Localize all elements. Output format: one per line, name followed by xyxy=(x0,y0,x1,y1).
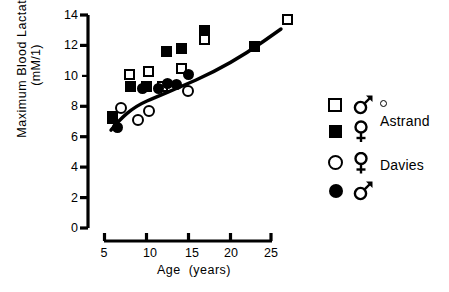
data-point-open-square xyxy=(124,69,135,80)
data-point-open-circle xyxy=(143,105,155,117)
male-symbol-icon xyxy=(352,94,374,118)
data-point-filled-circle xyxy=(183,69,194,80)
open-square-icon xyxy=(328,96,346,114)
legend-label-astrand: Astrand xyxy=(380,113,430,129)
filled-square-icon xyxy=(328,122,346,140)
data-point-filled-square xyxy=(199,25,210,36)
data-point-filled-square xyxy=(176,43,187,54)
degree-dot-icon xyxy=(380,100,387,107)
legend-label-davies: Davies xyxy=(380,157,424,173)
data-point-open-square xyxy=(282,14,293,25)
data-point-open-circle xyxy=(132,114,144,126)
legend-row-astrand-female: Astrand xyxy=(328,122,449,148)
chart-legend: Astrand Davies xyxy=(328,96,449,214)
legend-row-davies-male xyxy=(328,182,449,208)
female-symbol-icon xyxy=(352,152,374,176)
data-point-filled-circle xyxy=(112,122,123,133)
data-point-filled-circle xyxy=(137,83,148,94)
data-point-open-circle xyxy=(115,102,127,114)
female-symbol-icon xyxy=(352,120,374,144)
filled-circle-icon xyxy=(328,182,346,200)
chart-figure: Maximum Blood Lactate (mM/1) 14 12 10 8 … xyxy=(0,0,449,292)
data-point-open-square xyxy=(143,66,154,77)
data-point-filled-square xyxy=(125,81,136,92)
data-point-filled-square xyxy=(161,46,172,57)
data-point-filled-square xyxy=(249,41,260,52)
legend-row-davies-female: Davies xyxy=(328,154,449,180)
male-symbol-icon xyxy=(352,180,374,204)
data-point-filled-circle xyxy=(171,79,182,90)
data-point-open-circle xyxy=(182,85,194,97)
open-circle-icon xyxy=(328,154,346,172)
